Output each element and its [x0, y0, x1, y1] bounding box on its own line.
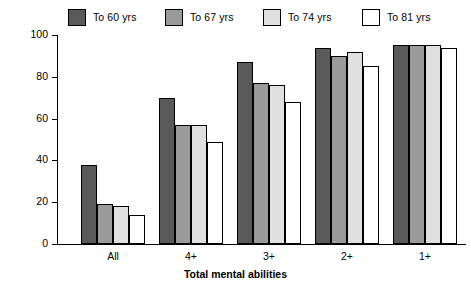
x-axis-label: Total mental abilities	[0, 268, 471, 280]
bar	[393, 45, 409, 244]
bars-row	[159, 35, 223, 244]
bar	[269, 85, 285, 244]
x-axis-line	[57, 244, 466, 245]
chart-legend: To 60 yrsTo 67 yrsTo 74 yrsTo 81 yrs	[0, 6, 471, 28]
y-tick-label: 100	[22, 28, 48, 40]
legend-swatch-icon	[165, 9, 183, 26]
bars-row	[237, 35, 301, 244]
bar	[191, 125, 207, 244]
legend-label: To 74 yrs	[288, 11, 332, 23]
bar	[363, 66, 379, 244]
bar	[315, 48, 331, 244]
bar	[113, 206, 129, 244]
bar	[253, 83, 269, 244]
bar-chart: To 60 yrsTo 67 yrsTo 74 yrsTo 81 yrs Per…	[0, 0, 471, 288]
y-tick-label: 60	[22, 112, 48, 124]
legend-item-0: To 60 yrs	[68, 9, 137, 26]
y-tick-label: 80	[22, 70, 48, 82]
bar	[285, 102, 301, 244]
bar	[441, 48, 457, 244]
x-tick-label: 1+	[405, 250, 445, 262]
bars-row	[81, 35, 145, 244]
bars-row	[315, 35, 379, 244]
legend-item-3: To 81 yrs	[362, 9, 431, 26]
legend-item-1: To 67 yrs	[165, 9, 234, 26]
bar	[175, 125, 191, 244]
legend-swatch-icon	[68, 9, 86, 26]
y-tick-label: 20	[22, 195, 48, 207]
legend-item-2: To 74 yrs	[263, 9, 332, 26]
plot-area	[57, 35, 465, 244]
y-tick-label: 40	[22, 153, 48, 165]
bar	[207, 142, 223, 244]
legend-label: To 81 yrs	[387, 11, 431, 23]
bar-groups	[57, 35, 465, 244]
legend-label: To 67 yrs	[190, 11, 234, 23]
bar	[237, 62, 253, 244]
x-tick-label: All	[93, 250, 133, 262]
bars-row	[393, 35, 457, 244]
bar	[347, 52, 363, 244]
x-tick-label: 2+	[327, 250, 367, 262]
legend-swatch-icon	[263, 9, 281, 26]
legend-label: To 60 yrs	[93, 11, 137, 23]
bar	[97, 204, 113, 244]
x-tick-label: 4+	[171, 250, 211, 262]
bar	[129, 215, 145, 244]
y-tick-label: 0	[22, 237, 48, 249]
bar	[331, 56, 347, 244]
x-tick-label: 3+	[249, 250, 289, 262]
bar	[159, 98, 175, 244]
bar	[409, 45, 425, 244]
bar	[425, 45, 441, 244]
bar	[81, 165, 97, 244]
legend-swatch-icon	[362, 9, 380, 26]
